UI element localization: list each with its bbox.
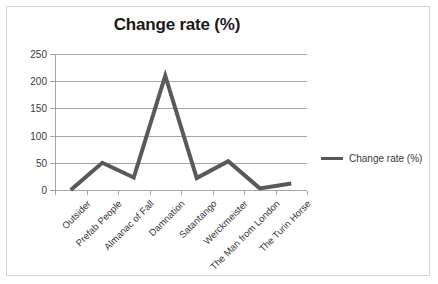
y-axis-tick-mark: [50, 163, 55, 164]
legend-label: Change rate (%): [349, 153, 422, 164]
x-axis-tick-mark: [87, 191, 88, 195]
x-axis-tick-mark: [150, 191, 151, 195]
x-axis-tick-mark: [244, 191, 245, 195]
x-axis-tick-mark: [118, 191, 119, 195]
x-axis-tick-mark: [276, 191, 277, 195]
x-axis-tick-labels: OutsiderPrefab PeopleAlmanac of FallDamn…: [7, 7, 438, 284]
x-axis-tick-mark: [213, 191, 214, 195]
y-axis-tick-mark: [50, 54, 55, 55]
chart-container: Change rate (%) 050100150200250 Outsider…: [6, 6, 430, 276]
y-axis-tick-mark: [50, 81, 55, 82]
x-axis-tick-mark: [55, 191, 56, 195]
y-axis-tick-mark: [50, 136, 55, 137]
legend-line-marker: [321, 157, 343, 160]
x-axis-tick-mark: [307, 191, 308, 195]
chart-legend: Change rate (%): [321, 153, 422, 164]
x-axis-tick-mark: [181, 191, 182, 195]
y-axis-tick-mark: [50, 108, 55, 109]
